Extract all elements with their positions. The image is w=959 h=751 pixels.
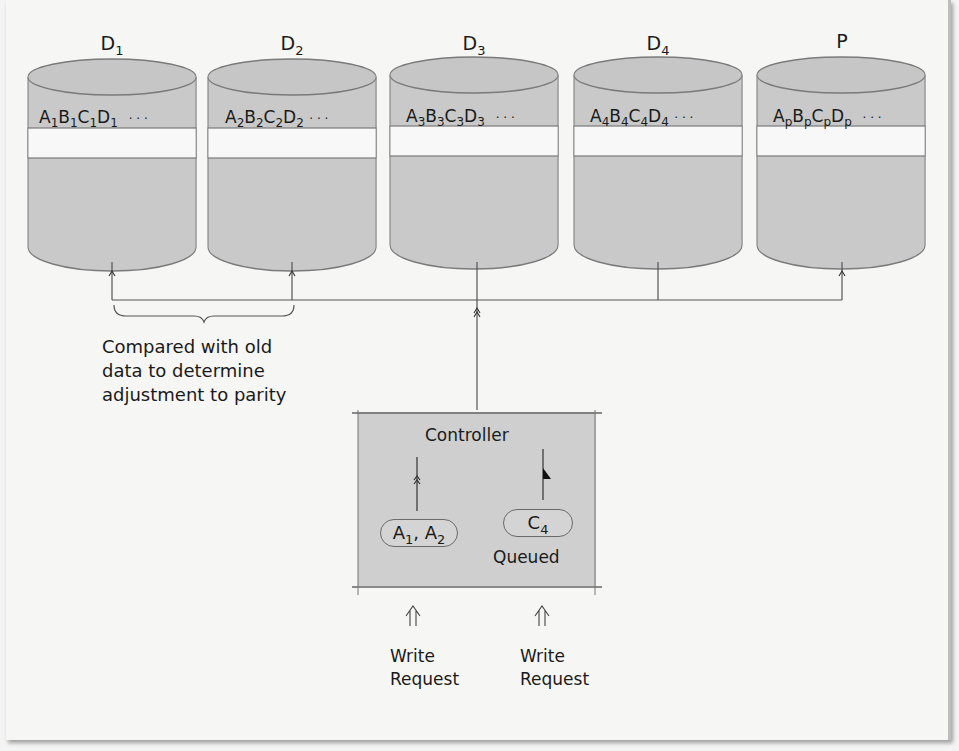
brace-note-line-3: adjustment to parity: [102, 384, 286, 406]
stripe-label-d1: A1B1C1D1 · · ·: [39, 107, 148, 130]
write-arrows: [406, 606, 549, 626]
figure-page: D1 D2 D3 D4 P A1B1C1D1 · · · A2B2C2D2 · …: [6, 0, 951, 740]
write-request-1-line-2: Request: [390, 668, 459, 690]
brace-note-line-2: data to determine: [102, 360, 265, 382]
disk-title-parity: P: [812, 30, 872, 56]
disk-d2: [208, 59, 376, 271]
stripe-label-d3: A3B3C3D3 · · ·: [406, 106, 515, 129]
write-request-2-line-1: Write: [520, 645, 565, 667]
disk-title-d2: D2: [262, 32, 322, 58]
disk-title-d1: D1: [82, 32, 142, 58]
pill-a1-a2: A1, A2: [380, 519, 458, 547]
write-request-1-line-1: Write: [390, 645, 435, 667]
disk-title-d4: D4: [628, 32, 688, 58]
brace-note-line-1: Compared with old: [102, 336, 272, 358]
stripe-label-d4: A4B4C4D4 · · ·: [590, 106, 693, 129]
disk-d1: [28, 59, 196, 271]
brace-icon: [114, 305, 294, 322]
write-request-2-line-2: Request: [520, 668, 589, 690]
pill-c4: C4: [503, 509, 573, 537]
double-arrow-up-icon: [406, 606, 420, 626]
controller-title: Controller: [425, 424, 509, 446]
disk-title-d3: D3: [444, 32, 504, 58]
disk-d3: [390, 57, 558, 269]
disk-d4: [574, 57, 742, 269]
stripe-label-parity: ApBpCpDp · · ·: [773, 106, 882, 129]
disk-parity: [757, 57, 925, 269]
stripe-label-d2: A2B2C2D2 · · ·: [225, 107, 328, 130]
double-arrow-up-icon: [535, 606, 549, 626]
queued-label: Queued: [493, 546, 560, 568]
